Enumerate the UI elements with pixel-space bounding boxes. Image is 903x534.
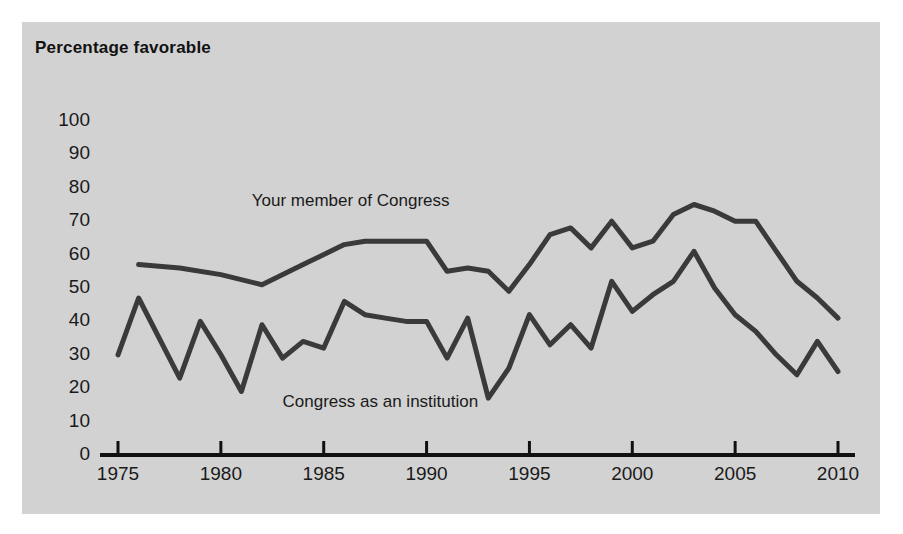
y-axis-tick-label: 30 [44,343,90,365]
x-axis-ticks [118,441,838,455]
series-polylines [118,205,838,399]
y-axis-tick-label: 10 [44,410,90,432]
y-axis-tick-label: 80 [44,176,90,198]
x-axis-tick-label: 1980 [191,463,251,485]
x-axis-tick-label: 1975 [88,463,148,485]
y-axis-tick-label: 50 [44,276,90,298]
y-axis-tick-label: 90 [44,142,90,164]
y-axis-tick-label: 40 [44,309,90,331]
x-axis-tick-label: 2000 [602,463,662,485]
x-axis-tick-label: 2005 [705,463,765,485]
x-axis-tick-label: 1990 [397,463,457,485]
y-axis-tick-label: 100 [44,109,90,131]
y-axis-tick-label: 70 [44,209,90,231]
chart-plot-area [0,0,903,534]
x-axis-tick-label: 1995 [499,463,559,485]
x-axis-tick-label: 2010 [808,463,868,485]
y-axis-tick-label: 0 [44,443,90,465]
series-label-upper: Your member of Congress [252,191,450,211]
x-axis-tick-label: 1985 [294,463,354,485]
series-line-upper [139,205,838,319]
y-axis-tick-label: 60 [44,243,90,265]
series-label-lower: Congress as an institution [283,392,479,412]
y-axis-tick-label: 20 [44,376,90,398]
